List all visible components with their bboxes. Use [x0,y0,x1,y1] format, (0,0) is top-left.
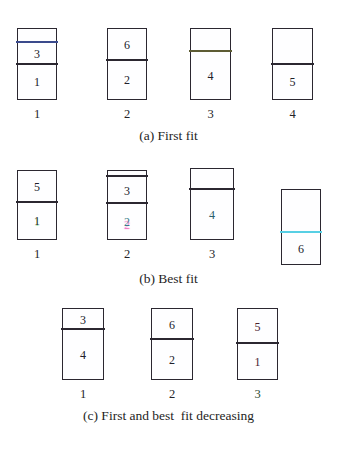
bin-index-label: 2 [107,248,147,261]
item-number: 6 [124,39,130,51]
bin-packing-figure: 3 1 1 6 2 2 4 3 5 4 [0,0,337,451]
item-number: 4 [208,70,214,82]
bin-a-3-seg-1 [191,29,230,52]
bin-b-1-seg-1: 5 [18,171,56,203]
bin-a-3: 4 [190,28,231,100]
bin-b-1: 5 1 [17,170,57,240]
bin-a-1-seg-2: 3 [18,43,56,65]
bin-a-3-seg-2: 4 [191,52,230,99]
item-number: 5 [290,76,296,88]
bin-index-label: 3 [190,248,234,261]
bin-index-label: 1 [17,108,57,121]
item-number: 4 [80,349,86,361]
bin-b-3-seg-2: 4 [191,190,233,239]
item-number: 1 [34,215,40,227]
bin-index-label: 4 [272,108,313,121]
item-number: 5 [255,321,261,333]
item-number: 3 [34,48,40,60]
bin-b-3: 4 [190,168,234,240]
bin-index-label: 2 [107,108,147,121]
item-number: 4 [209,209,215,221]
bin-index-label: 3 [190,108,231,121]
bin-index-label: 1 [17,248,57,261]
item-number: 5 [34,181,40,193]
bin-index-label: 1 [62,388,104,401]
item-number: 3 [80,314,86,326]
bin-a-1-seg-3: 1 [18,65,56,99]
bin-c-3-seg-2: 1 [238,344,277,379]
bin-b-2-seg-2: 3 [108,177,146,204]
item-number: 6 [169,319,175,331]
bin-b-4-seg-2: 6 [282,233,320,264]
bin-a-4-seg-2: 5 [273,65,312,99]
bin-b-3-seg-1 [191,169,233,190]
bin-a-1: 3 1 [17,28,57,100]
bin-b-4-seg-1 [282,190,320,233]
bin-a-1-seg-1 [18,29,56,43]
bin-c-2-seg-1: 6 [152,309,192,340]
item-number: 6 [298,243,304,255]
bin-a-2-seg-1: 6 [108,29,146,61]
bin-a-2: 6 2 [107,28,147,100]
caption-row-b: (b) Best fit [0,272,337,287]
bin-c-3-seg-1: 5 [238,309,277,344]
bin-b-4: 6 [281,189,321,265]
bin-b-2-seg-3: 2 [108,204,146,239]
bin-index-label: 2 [151,388,193,401]
item-number: 3 [124,185,130,197]
caption-row-a: (a) First fit [0,129,337,144]
item-number: 2 [124,74,130,86]
bin-c-2-seg-2: 2 [152,340,192,379]
bin-c-1-seg-1: 3 [63,309,103,330]
bin-c-1: 3 4 [62,308,104,380]
bin-c-2: 6 2 [151,308,193,380]
item-number: 1 [34,76,40,88]
item-number: 2 [169,354,175,366]
item-number: 1 [255,356,261,368]
item-number: 2 [124,216,130,228]
bin-b-2: 3 2 [107,170,147,240]
bin-index-label: 3 [237,388,278,401]
bin-c-1-seg-2: 4 [63,330,103,379]
bin-b-1-seg-2: 1 [18,203,56,239]
bin-a-4-seg-1 [273,29,312,65]
bin-c-3: 5 1 [237,308,278,380]
bin-a-2-seg-2: 2 [108,61,146,99]
bin-a-4: 5 [272,28,313,100]
caption-row-c: (c) First and best fit decreasing [0,409,337,424]
